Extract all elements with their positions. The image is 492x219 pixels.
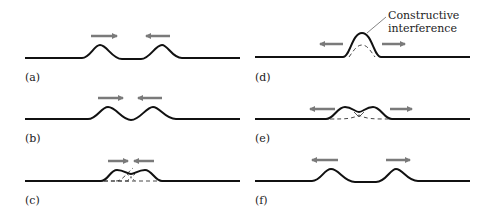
leader-line [367,17,386,33]
panel-b [25,98,240,120]
panel-c [25,161,240,181]
panel-label-b: (b) [25,133,41,144]
wave-b [25,107,240,120]
wave-a [25,45,240,59]
panel-label-f: (f) [255,195,268,206]
wave-f [255,169,470,182]
panel-label-c: (c) [25,195,40,206]
dashed-component-pulse [349,45,375,57]
panel-label-e: (e) [255,133,270,144]
wave-d [255,33,470,57]
dashed-cross [127,174,135,181]
panel-f [255,160,470,182]
annotation-line-2: interference [388,22,459,35]
panel-a [25,36,240,59]
annotation-constructive: Constructive interference [388,9,459,35]
wave-c [25,170,240,181]
panel-e [255,107,470,119]
panel-label-a: (a) [25,72,40,83]
panel-label-d: (d) [255,72,271,83]
superposition-figure: (a) (b) (c) (d) (e) (f) Constructive int… [0,0,492,219]
annotation-line-1: Constructive [388,9,459,22]
